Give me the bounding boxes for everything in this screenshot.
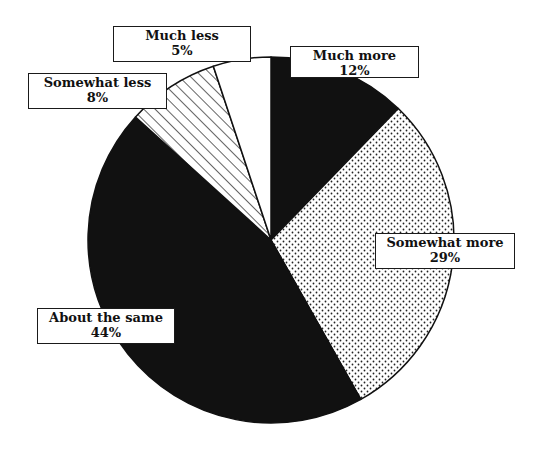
slice-label-about-the-same: About the same 44% xyxy=(37,308,175,344)
label-value: 5% xyxy=(118,43,246,58)
label-text: Much less xyxy=(118,28,246,43)
label-value: 12% xyxy=(295,63,414,78)
label-value: 8% xyxy=(33,90,162,105)
label-value: 44% xyxy=(42,325,170,340)
slice-label-much-more: Much more 12% xyxy=(290,46,419,78)
slice-label-somewhat-less: Somewhat less 8% xyxy=(28,73,167,109)
label-text: Somewhat more xyxy=(380,235,510,250)
slice-label-somewhat-more: Somewhat more 29% xyxy=(375,233,515,269)
label-text: About the same xyxy=(42,310,170,325)
slice-label-much-less: Much less 5% xyxy=(113,26,251,62)
label-text: Somewhat less xyxy=(33,75,162,90)
label-value: 29% xyxy=(380,250,510,265)
label-text: Much more xyxy=(295,48,414,63)
